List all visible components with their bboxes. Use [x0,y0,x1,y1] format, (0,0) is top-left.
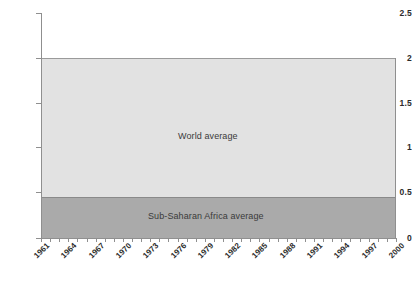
x-tick-1999 [387,238,388,242]
x-tick-label-1982: 1982 [223,241,242,260]
x-tick-1965 [77,238,78,242]
x-tick-1979 [205,238,206,242]
y-tick-label-0.5: 0.5 [382,187,412,197]
y-tick-label-2: 2 [382,53,412,63]
x-tick-1994 [341,238,342,242]
x-tick-1969 [114,238,115,242]
x-tick-1976 [178,238,179,242]
x-tick-1993 [332,238,333,242]
x-tick-1986 [269,238,270,242]
y-tick-0.5 [36,192,41,193]
x-tick-1967 [96,238,97,242]
x-tick-label-1991: 1991 [305,241,324,260]
x-tick-label-1985: 1985 [251,241,270,260]
x-tick-label-1970: 1970 [114,241,133,260]
x-tick-1991 [314,238,315,242]
x-tick-1971 [132,238,133,242]
x-tick-1980 [214,238,215,242]
y-tick-1 [36,147,41,148]
x-tick-1990 [305,238,306,242]
x-tick-1966 [87,238,88,242]
x-tick-1977 [187,238,188,242]
y-axis-line [41,13,42,239]
x-tick-1973 [150,238,151,242]
x-tick-label-2000: 2000 [387,241,406,260]
x-tick-label-1964: 1964 [59,241,78,260]
y-tick-2.5 [36,13,41,14]
x-tick-1981 [223,238,224,242]
x-tick-label-1973: 1973 [141,241,160,260]
x-tick-label-1976: 1976 [169,241,188,260]
x-tick-1992 [323,238,324,242]
x-tick-1968 [105,238,106,242]
series-label-sub-saharan-africa-average: Sub-Saharan Africa average [148,211,264,221]
y-tick-1.5 [36,103,41,104]
x-tick-1963 [59,238,60,242]
x-tick-1997 [369,238,370,242]
chart-container: World average Sub-Saharan Africa average… [0,0,412,285]
x-tick-label-1988: 1988 [278,241,297,260]
x-tick-1982 [232,238,233,242]
x-tick-1987 [278,238,279,242]
x-tick-1983 [241,238,242,242]
x-tick-2000 [396,238,397,242]
x-tick-1989 [296,238,297,242]
x-tick-label-1994: 1994 [333,241,352,260]
x-tick-1974 [159,238,160,242]
x-tick-1972 [141,238,142,242]
x-tick-1984 [250,238,251,242]
x-tick-1978 [196,238,197,242]
x-axis-line [41,238,397,239]
x-tick-1961 [41,238,42,242]
x-tick-1975 [168,238,169,242]
x-tick-1998 [378,238,379,242]
x-tick-label-1979: 1979 [196,241,215,260]
y-tick-2 [36,58,41,59]
series-band-world-average [41,58,396,197]
x-tick-label-1997: 1997 [360,241,379,260]
x-tick-1964 [68,238,69,242]
y-tick-label-1: 1 [382,142,412,152]
x-tick-1996 [360,238,361,242]
x-tick-1962 [50,238,51,242]
x-tick-1995 [350,238,351,242]
x-tick-1988 [287,238,288,242]
series-label-world-average: World average [178,131,238,141]
x-tick-label-1967: 1967 [87,241,106,260]
y-tick-label-2.5: 2.5 [382,8,412,18]
x-tick-label-1961: 1961 [32,241,51,260]
y-tick-label-1.5: 1.5 [382,98,412,108]
x-tick-1970 [123,238,124,242]
x-tick-1985 [259,238,260,242]
